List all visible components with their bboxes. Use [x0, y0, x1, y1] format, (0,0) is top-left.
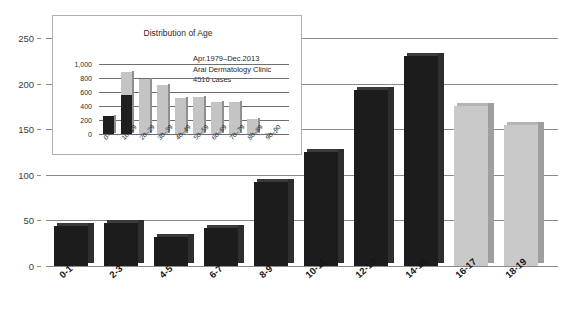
inset-bar-side: [114, 115, 116, 133]
bar-face: [404, 56, 438, 266]
inset-y-tick-label: 800: [80, 75, 92, 82]
bar-12-13: [354, 90, 388, 266]
bar-10-11: [304, 152, 338, 266]
bar-face: [104, 223, 138, 266]
bar-side: [288, 179, 294, 263]
main-y-tick-mark: [37, 220, 41, 221]
inset-y-tick-label: 400: [80, 103, 92, 110]
bar-0-1: [54, 226, 88, 266]
inset-y-tick-label: 0: [88, 131, 92, 138]
bar-side: [438, 53, 444, 263]
bar-side: [488, 103, 494, 263]
bar-face: [504, 125, 538, 266]
bar-side: [338, 149, 344, 263]
main-y-tick-label: 200: [18, 78, 34, 89]
inset-annotation-date-range: Apr.1979–Dec.2013: [193, 54, 271, 65]
bar-face: [454, 106, 488, 266]
bar-8-9: [254, 182, 288, 266]
inset-bar-seg-remainder: [121, 72, 132, 94]
main-y-tick-label: 250: [18, 33, 34, 44]
bar-18-19: [504, 125, 538, 266]
bar-face: [154, 237, 188, 266]
main-y-tick-mark: [37, 129, 41, 130]
bar-14-15: [404, 56, 438, 266]
main-y-tick-label: 50: [23, 215, 34, 226]
bar-side: [138, 220, 144, 263]
bar-side: [188, 234, 194, 263]
bar-face: [254, 182, 288, 266]
inset-bar-chart: Distribution of Age Apr.1979–Dec.2013 Ar…: [52, 15, 302, 155]
bar-side: [88, 223, 94, 263]
inset-y-tick-label: 200: [80, 117, 92, 124]
bar-face: [204, 228, 238, 266]
inset-chart-y-axis: 0 200 400 600 800 1,000: [53, 16, 99, 156]
bar-side: [388, 87, 394, 263]
bar-4-5: [154, 237, 188, 266]
bar-side: [538, 122, 544, 263]
main-y-tick-mark: [37, 38, 41, 39]
inset-y-tick-label: 600: [80, 89, 92, 96]
main-chart-y-axis: 0 50 100 150 200 250: [0, 0, 46, 315]
bar-face: [304, 152, 338, 266]
inset-y-tick-label: 1,000: [74, 61, 92, 68]
bar-6-7: [204, 228, 238, 266]
inset-gridline: [99, 64, 289, 65]
bar-2-3: [104, 223, 138, 266]
main-y-tick-mark: [37, 84, 41, 85]
main-y-tick-label: 0: [29, 261, 34, 272]
bar-face: [354, 90, 388, 266]
main-gridline: [46, 266, 558, 267]
main-y-tick-mark: [37, 175, 41, 176]
main-y-tick-label: 150: [18, 124, 34, 135]
main-y-tick-mark: [37, 266, 41, 267]
inset-chart-plot-area: [99, 64, 289, 134]
bar-side: [238, 225, 244, 263]
bar-face: [54, 226, 88, 266]
main-y-tick-label: 100: [18, 169, 34, 180]
bar-16-17: [454, 106, 488, 266]
